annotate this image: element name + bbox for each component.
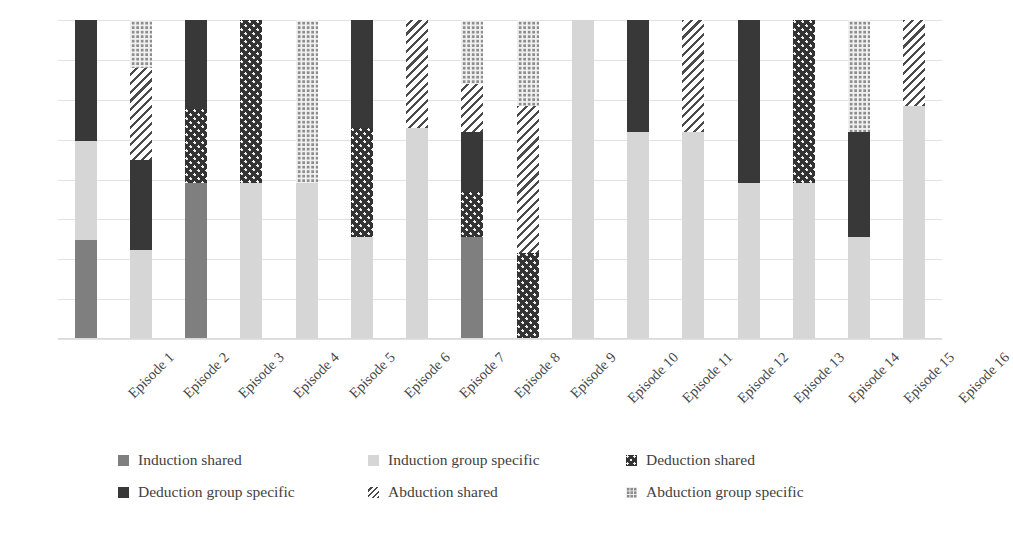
bar-segment-deduction-shared[interactable]	[351, 128, 373, 236]
legend-swatch-icon-induction-shared	[118, 455, 129, 466]
bar-7[interactable]	[406, 20, 428, 339]
bar-1[interactable]	[75, 20, 97, 339]
x-axis-labels: Episode 1Episode 2Episode 3Episode 4Epis…	[58, 341, 942, 431]
bar-segment-induction-shared[interactable]	[185, 183, 207, 339]
bar-segment-induction-group-specific[interactable]	[75, 141, 97, 240]
bar-segment-deduction-group-specific[interactable]	[75, 20, 97, 141]
bar-segment-abduction-group-specific[interactable]	[130, 20, 152, 68]
x-axis-label-16: Episode 16	[955, 349, 1013, 407]
legend-item-deduction-shared[interactable]: Deduction shared	[626, 451, 838, 469]
bar-16[interactable]	[903, 20, 925, 339]
legend-swatch-icon-abduction-shared	[368, 487, 379, 498]
bar-segment-deduction-group-specific[interactable]	[627, 20, 649, 132]
bar-segment-abduction-group-specific[interactable]	[848, 20, 870, 132]
bar-segment-deduction-group-specific[interactable]	[461, 132, 483, 193]
legend-item-induction-shared[interactable]: Induction shared	[118, 451, 368, 469]
bar-segment-induction-group-specific[interactable]	[903, 106, 925, 339]
chart-legend: Induction sharedInduction group specific…	[118, 444, 838, 508]
legend-item-abduction-shared[interactable]: Abduction shared	[368, 483, 626, 501]
bar-segment-abduction-shared[interactable]	[903, 20, 925, 106]
x-axis-label-7: Episode 7	[456, 349, 509, 402]
x-axis-label-8: Episode 8	[511, 349, 564, 402]
gridline	[58, 339, 942, 340]
x-axis-label-4: Episode 4	[290, 349, 343, 402]
bar-segment-induction-group-specific[interactable]	[240, 183, 262, 339]
bar-segment-abduction-shared[interactable]	[130, 68, 152, 161]
bar-segment-induction-group-specific[interactable]	[296, 183, 318, 339]
axis-baseline	[58, 338, 942, 339]
bar-9[interactable]	[517, 20, 539, 339]
legend-label: Deduction shared	[646, 451, 755, 469]
x-axis-label-9: Episode 9	[566, 349, 619, 402]
bar-segment-induction-group-specific[interactable]	[682, 132, 704, 339]
bar-segment-abduction-group-specific[interactable]	[296, 20, 318, 183]
legend-swatch-icon-abduction-group-specific	[626, 487, 637, 498]
bar-segment-deduction-group-specific[interactable]	[738, 20, 760, 183]
plot-area	[58, 20, 942, 339]
bar-segment-abduction-shared[interactable]	[461, 84, 483, 132]
x-axis-label-13: Episode 13	[790, 349, 848, 407]
bar-segment-induction-group-specific[interactable]	[130, 250, 152, 339]
legend-label: Induction shared	[138, 451, 242, 469]
bar-10[interactable]	[572, 20, 594, 339]
legend-label: Abduction shared	[388, 483, 498, 501]
bar-8[interactable]	[461, 20, 483, 339]
bar-segment-deduction-group-specific[interactable]	[130, 160, 152, 249]
bar-segment-induction-group-specific[interactable]	[406, 128, 428, 339]
bar-segment-deduction-shared[interactable]	[517, 253, 539, 339]
bar-segment-induction-group-specific[interactable]	[351, 237, 373, 339]
bar-segment-induction-group-specific[interactable]	[848, 237, 870, 339]
bar-12[interactable]	[682, 20, 704, 339]
legend-swatch-icon-deduction-group-specific	[118, 487, 129, 498]
x-axis-label-6: Episode 6	[401, 349, 454, 402]
x-axis-label-3: Episode 3	[235, 349, 288, 402]
bar-4[interactable]	[240, 20, 262, 339]
bar-segment-induction-group-specific[interactable]	[738, 183, 760, 339]
bar-segment-abduction-shared[interactable]	[682, 20, 704, 132]
x-axis-label-12: Episode 12	[734, 349, 792, 407]
bar-13[interactable]	[738, 20, 760, 339]
bar-14[interactable]	[793, 20, 815, 339]
bar-segment-deduction-group-specific[interactable]	[848, 132, 870, 237]
bar-6[interactable]	[351, 20, 373, 339]
bar-segment-induction-shared[interactable]	[461, 237, 483, 339]
bar-segment-deduction-shared[interactable]	[793, 20, 815, 183]
bar-3[interactable]	[185, 20, 207, 339]
bar-segment-deduction-group-specific[interactable]	[185, 20, 207, 109]
legend-item-abduction-group-specific[interactable]: Abduction group specific	[626, 483, 838, 501]
bar-segment-induction-group-specific[interactable]	[627, 132, 649, 339]
bar-segment-abduction-shared[interactable]	[517, 106, 539, 253]
x-axis-label-1: Episode 1	[124, 349, 177, 402]
legend-swatch-icon-deduction-shared	[626, 455, 637, 466]
x-axis-label-11: Episode 11	[679, 349, 736, 406]
legend-item-induction-group-specific[interactable]: Induction group specific	[368, 451, 626, 469]
bar-11[interactable]	[627, 20, 649, 339]
bar-segment-abduction-group-specific[interactable]	[461, 20, 483, 84]
bar-segment-deduction-group-specific[interactable]	[351, 20, 373, 128]
bar-segment-induction-shared[interactable]	[75, 240, 97, 339]
legend-label: Abduction group specific	[646, 483, 804, 501]
bar-segment-induction-group-specific[interactable]	[572, 20, 594, 339]
bar-2[interactable]	[130, 20, 152, 339]
legend-label: Induction group specific	[388, 451, 540, 469]
bar-15[interactable]	[848, 20, 870, 339]
legend-label: Deduction group specific	[138, 483, 295, 501]
bar-segment-induction-group-specific[interactable]	[793, 183, 815, 339]
x-axis-label-15: Episode 15	[900, 349, 958, 407]
x-axis-label-2: Episode 2	[180, 349, 233, 402]
x-axis-label-5: Episode 5	[345, 349, 398, 402]
bar-segment-abduction-shared[interactable]	[406, 20, 428, 128]
legend-item-deduction-group-specific[interactable]: Deduction group specific	[118, 483, 368, 501]
bar-segment-deduction-shared[interactable]	[185, 109, 207, 182]
bar-5[interactable]	[296, 20, 318, 339]
x-axis-label-10: Episode 10	[624, 349, 682, 407]
legend-swatch-icon-induction-group-specific	[368, 455, 379, 466]
bar-segment-abduction-group-specific[interactable]	[517, 20, 539, 106]
bar-segment-deduction-shared[interactable]	[461, 192, 483, 237]
x-axis-label-14: Episode 14	[845, 349, 903, 407]
bar-segment-deduction-shared[interactable]	[240, 20, 262, 183]
